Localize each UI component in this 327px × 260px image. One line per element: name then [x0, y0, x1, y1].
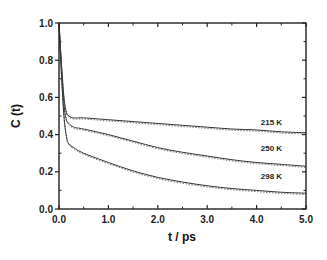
y-tick-label: 0.4 [39, 129, 53, 140]
series-labels: 215 K250 K298 K [261, 118, 283, 181]
series-lines [59, 23, 306, 194]
x-tick-label: 2.0 [151, 214, 165, 225]
y-tick-label: 0.2 [39, 166, 53, 177]
series-line [59, 23, 306, 193]
y-tick-label: 0.6 [39, 92, 53, 103]
series-label: 215 K [261, 118, 283, 127]
chart: 0.01.02.03.04.05.0 0.00.20.40.60.81.0 21… [0, 0, 327, 260]
plot-frame [59, 23, 306, 209]
y-tick-label: 1.0 [39, 18, 53, 29]
x-tick-label: 1.0 [101, 214, 115, 225]
y-tick-label: 0.8 [39, 55, 53, 66]
x-axis-title: t / ps [168, 230, 196, 244]
series-label: 250 K [261, 144, 283, 153]
y-axis-title: C (t) [9, 104, 23, 128]
series-line [59, 23, 306, 133]
x-tick-label: 5.0 [299, 214, 313, 225]
x-tick-label: 3.0 [200, 214, 214, 225]
series-fit-line [59, 24, 306, 195]
x-tick-label: 4.0 [250, 214, 264, 225]
y-tick-label: 0.0 [39, 204, 53, 215]
series-label: 298 K [261, 172, 283, 181]
y-axis-ticks: 0.00.20.40.60.81.0 [39, 18, 306, 215]
x-tick-label: 0.0 [52, 214, 66, 225]
